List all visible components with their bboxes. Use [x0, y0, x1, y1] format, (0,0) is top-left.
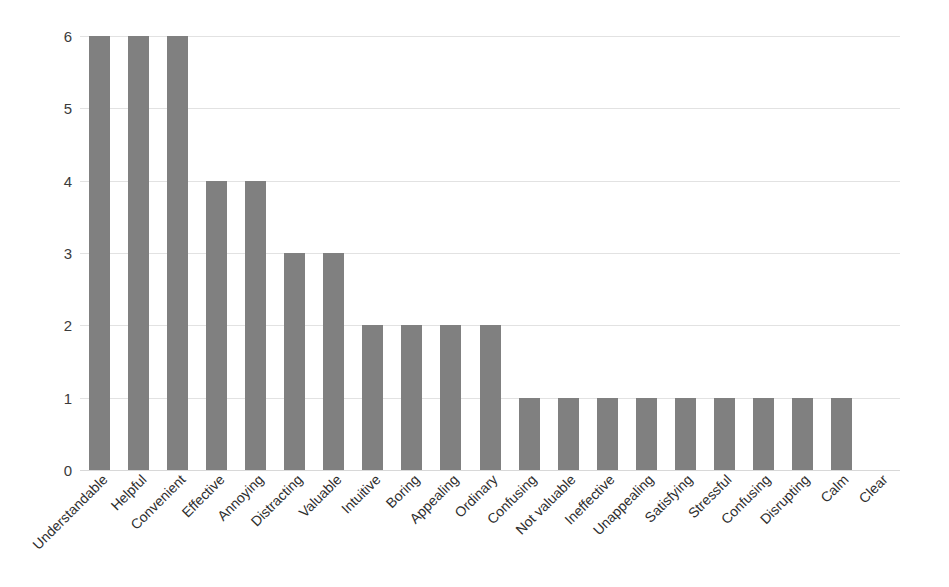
y-axis: 0123456 — [36, 36, 72, 470]
bar[interactable] — [597, 398, 618, 470]
y-axis-tick-label: 6 — [46, 29, 72, 44]
bar[interactable] — [558, 398, 579, 470]
x-axis-tick-label: Effective — [0, 472, 227, 587]
bar[interactable] — [284, 253, 305, 470]
bar[interactable] — [831, 398, 852, 470]
bar[interactable] — [480, 325, 501, 470]
bar[interactable] — [128, 36, 149, 470]
y-axis-tick-label: 4 — [46, 173, 72, 188]
bar[interactable] — [636, 398, 657, 470]
bar-chart: 0123456 UnderstandableHelpfulConvenientE… — [0, 0, 949, 587]
bar[interactable] — [206, 181, 227, 470]
bar[interactable] — [440, 325, 461, 470]
bar[interactable] — [753, 398, 774, 470]
y-axis-tick-label: 3 — [46, 246, 72, 261]
bar[interactable] — [675, 398, 696, 470]
y-axis-tick-label: 1 — [46, 390, 72, 405]
bar[interactable] — [89, 36, 110, 470]
bar[interactable] — [245, 181, 266, 470]
bar[interactable] — [323, 253, 344, 470]
x-axis: UnderstandableHelpfulConvenientEffective… — [80, 472, 900, 584]
y-axis-tick-label: 2 — [46, 318, 72, 333]
bars-container — [80, 36, 900, 470]
bar[interactable] — [714, 398, 735, 470]
bar[interactable] — [401, 325, 422, 470]
bar[interactable] — [792, 398, 813, 470]
y-axis-tick-label: 5 — [46, 101, 72, 116]
y-axis-tick-label: 0 — [46, 463, 72, 478]
bar[interactable] — [519, 398, 540, 470]
bar[interactable] — [167, 36, 188, 470]
bar[interactable] — [362, 325, 383, 470]
gridline-0 — [80, 470, 900, 471]
